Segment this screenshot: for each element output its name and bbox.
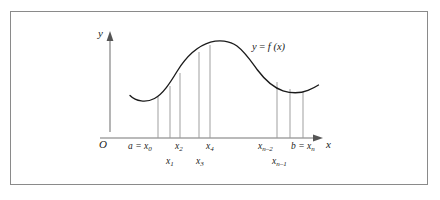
tick-label-xn-2-sub: n–2 xyxy=(262,145,273,153)
tick-label-x0-sub: 0 xyxy=(148,145,152,153)
tick-label-x3-sub: 3 xyxy=(200,160,204,168)
origin-label: O xyxy=(99,139,107,150)
tick-label-xn-sub: n xyxy=(311,145,315,153)
tick-label-xn-1-sub: n–1 xyxy=(276,160,287,168)
tick-label-x2-sub: 2 xyxy=(179,145,183,153)
tick-label-x0-base: a = x xyxy=(128,141,148,151)
x-axis-arrow-icon xyxy=(313,135,323,142)
function-label: y = f (x) xyxy=(252,42,285,53)
tick-label-xn-base: b = x xyxy=(291,141,311,151)
tick-label-xn-1: xn–1 xyxy=(272,157,287,168)
x-axis-label: x xyxy=(326,139,331,150)
plot-svg xyxy=(0,0,440,200)
tick-label-x0: a = x0 xyxy=(128,142,152,153)
function-curve xyxy=(130,41,319,101)
tick-label-x1: x1 xyxy=(166,157,174,168)
function-label-arg: (x) xyxy=(273,41,285,52)
figure-container: y x O y = f (x) a = x0 x2 x4 xn–2 b = xn… xyxy=(0,0,440,200)
tick-label-xn: b = xn xyxy=(291,142,315,153)
y-axis-label: y xyxy=(98,28,103,39)
tick-label-xn-2: xn–2 xyxy=(258,142,273,153)
tick-label-x4: x4 xyxy=(206,142,214,153)
y-axis-arrow-icon xyxy=(107,31,114,41)
tick-label-x3: x3 xyxy=(196,157,204,168)
tick-label-x2: x2 xyxy=(175,142,183,153)
tick-label-x4-sub: 4 xyxy=(210,145,214,153)
tick-label-x1-sub: 1 xyxy=(170,160,174,168)
